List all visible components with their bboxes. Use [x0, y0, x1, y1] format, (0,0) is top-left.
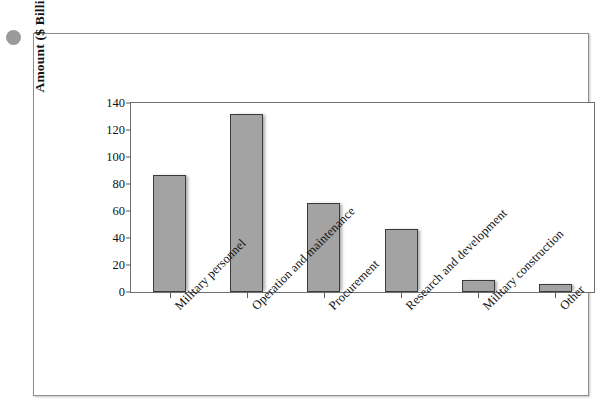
x-tick-mark	[247, 292, 248, 298]
y-tick-mark	[126, 184, 131, 185]
y-tick-mark	[126, 211, 131, 212]
y-tick-label: 20	[113, 258, 126, 273]
y-tick-label: 0	[119, 285, 125, 300]
y-tick-mark	[126, 130, 131, 131]
y-axis-title: Amount ($ Billions)	[32, 0, 48, 134]
y-tick-mark	[126, 103, 131, 104]
y-tick-label: 140	[106, 96, 125, 111]
y-tick-label: 60	[113, 204, 126, 219]
stray-dot-artifact	[6, 30, 21, 45]
bar	[462, 280, 495, 292]
y-tick-label: 80	[113, 177, 126, 192]
y-tick-mark	[126, 292, 131, 293]
x-tick-mark	[555, 292, 556, 298]
x-tick-mark	[170, 292, 171, 298]
x-tick-mark	[324, 292, 325, 298]
bar	[230, 114, 263, 292]
y-tick-label: 100	[106, 150, 125, 165]
y-tick-mark	[126, 157, 131, 158]
bar	[539, 284, 572, 292]
y-tick-mark	[126, 265, 131, 266]
y-tick-label: 120	[106, 123, 125, 138]
figure-frame: Amount ($ Billions) 020406080100120140 M…	[33, 33, 589, 396]
y-tick-label: 40	[113, 231, 126, 246]
bar	[385, 229, 418, 292]
x-tick-mark	[478, 292, 479, 298]
y-tick-mark	[126, 238, 131, 239]
x-tick-mark	[401, 292, 402, 298]
bar	[153, 175, 186, 292]
